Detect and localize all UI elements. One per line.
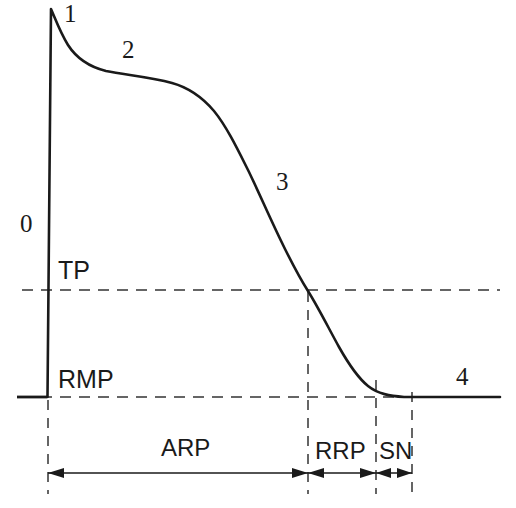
threshold-potential-label: TP [58,256,90,284]
rrp-left-arrowhead [308,468,324,478]
rrp-right-arrowhead [360,468,376,478]
arp-label: ARP [161,434,210,461]
sn-right-arrowhead [397,468,412,478]
sn-left-arrowhead [376,468,391,478]
sn-label: SN [379,437,412,464]
arp-right-arrowhead [292,468,308,478]
rrp-label: RRP [315,437,366,464]
arp-left-arrowhead [48,468,64,478]
phase-1-label: 1 [64,0,77,27]
action-potential-figure: 0 1 2 3 4 TP RMP ARP RRP SN [0,0,516,508]
phase-3-label: 3 [276,168,289,195]
phase-2-label: 2 [122,36,135,63]
resting-membrane-potential-label: RMP [58,365,114,393]
phase-4-label: 4 [456,363,469,390]
phase-0-label: 0 [20,210,33,237]
action-potential-curve [48,9,501,397]
action-potential-chart: 0 1 2 3 4 TP RMP ARP RRP SN [0,0,516,508]
